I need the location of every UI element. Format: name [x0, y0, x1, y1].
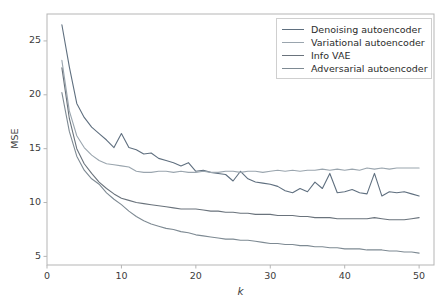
y-tick-label: 5: [12, 250, 41, 261]
x-tick-label: 0: [32, 270, 62, 281]
x-axis-label: k: [221, 285, 261, 297]
legend-color-swatch: [282, 68, 304, 69]
x-tick-label: 10: [106, 270, 136, 281]
chart-legend: Denoising autoencoder Variational autoen…: [276, 18, 432, 79]
legend-item-label: Info VAE: [311, 49, 350, 62]
y-tick-label: 10: [12, 196, 41, 207]
legend-color-swatch: [282, 42, 304, 43]
legend-item-label: Adversarial autoencoder: [311, 62, 428, 75]
legend-color-swatch: [282, 55, 304, 56]
legend-color-swatch: [282, 29, 304, 30]
y-axis-label: MSE: [9, 124, 20, 152]
legend-item[interactable]: Variational autoencoder: [282, 36, 426, 49]
x-tick-label: 30: [255, 270, 285, 281]
y-tick-label: 20: [12, 88, 41, 99]
chart-figure: 510152025 01020304050 MSE k Denoising au…: [0, 0, 448, 304]
legend-item[interactable]: Denoising autoencoder: [282, 23, 426, 36]
legend-item-label: Denoising autoencoder: [311, 23, 421, 36]
legend-item[interactable]: Adversarial autoencoder: [282, 62, 426, 75]
legend-item-label: Variational autoencoder: [311, 36, 425, 49]
y-tick-label: 25: [12, 34, 41, 45]
legend-item[interactable]: Info VAE: [282, 49, 426, 62]
x-tick-label: 20: [181, 270, 211, 281]
x-tick-label: 50: [404, 270, 434, 281]
x-tick-label: 40: [330, 270, 360, 281]
